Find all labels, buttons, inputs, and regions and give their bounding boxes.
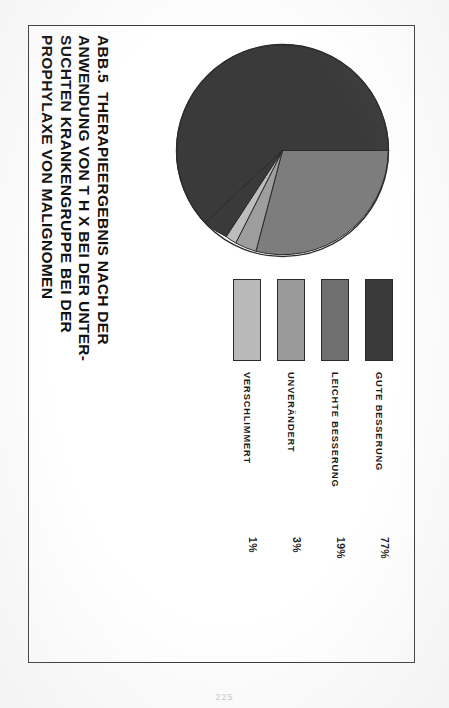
- bar-swatch-unveraendert: [277, 279, 305, 361]
- figure-title-line-4: PROPHYLAXE VON MALIGNOMEN: [38, 35, 57, 657]
- page-number: 225: [0, 692, 449, 702]
- figure-title-block: ABB.5THERAPIEERGEBNIS NACH DER ANWENDUNG…: [38, 35, 112, 657]
- figure-title-line-3: SUCHTEN KRANKENGRUPPE BEI DER: [56, 35, 75, 657]
- bar-percent-leichte-besserung: 19%: [335, 537, 346, 559]
- pie-chart-svg: [175, 43, 390, 258]
- pie-chart: [175, 43, 390, 258]
- bar-percent-gute-besserung: 77%: [379, 537, 390, 559]
- legend-row-verschlimmert: VERSCHLIMMERT: [232, 279, 262, 464]
- bar-swatch-verschlimmert: [233, 279, 261, 361]
- figure-title-line-2: ANWENDUNG VON T H X BEI DER UNTER-: [75, 35, 94, 657]
- figure-frame-border: GUTE BESSERUNG 77% LEICHTE BESSERUNG 19%…: [28, 25, 415, 663]
- bar-label-gute-besserung: GUTE BESSERUNG: [374, 372, 384, 471]
- figure-title-line-1: ABB.5THERAPIEERGEBNIS NACH DER: [93, 35, 112, 657]
- legend-row-gute-besserung: GUTE BESSERUNG: [364, 279, 394, 471]
- rotated-figure-canvas: GUTE BESSERUNG 77% LEICHTE BESSERUNG 19%…: [32, 29, 412, 659]
- figure-title-text-1: THERAPIEERGEBNIS NACH DER: [95, 92, 112, 345]
- bar-label-verschlimmert: VERSCHLIMMERT: [242, 372, 252, 464]
- bar-chart-legend-group: GUTE BESSERUNG 77% LEICHTE BESSERUNG 19%…: [94, 279, 394, 651]
- bar-percent-unveraendert: 3%: [291, 537, 302, 553]
- bar-percent-verschlimmert: 1%: [247, 537, 258, 553]
- legend-row-leichte-besserung: LEICHTE BESSERUNG: [320, 279, 350, 488]
- legend-row-unveraendert: UNVERÄNDERT: [276, 279, 306, 453]
- bar-swatch-gute-besserung: [365, 279, 393, 361]
- figure-number-label: ABB.5: [95, 35, 112, 83]
- bar-label-leichte-besserung: LEICHTE BESSERUNG: [330, 372, 340, 488]
- scanned-page: GUTE BESSERUNG 77% LEICHTE BESSERUNG 19%…: [0, 0, 449, 708]
- bar-swatch-leichte-besserung: [321, 279, 349, 361]
- bar-label-unveraendert: UNVERÄNDERT: [286, 372, 296, 453]
